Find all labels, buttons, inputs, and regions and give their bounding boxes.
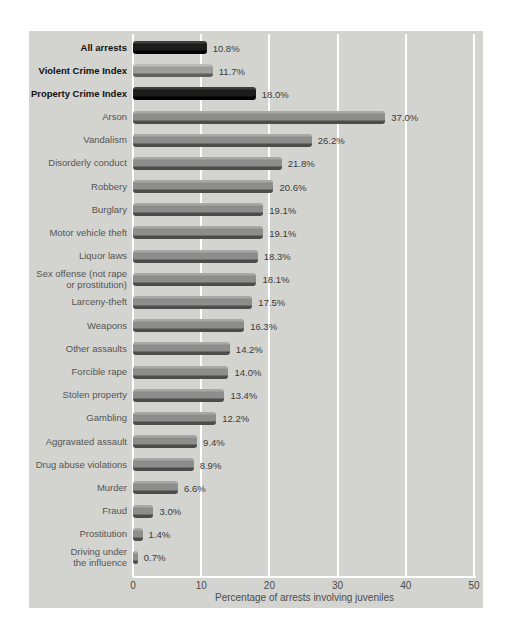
x-tick-label-20: 20 <box>264 580 275 591</box>
value-label: 3.0% <box>159 506 181 517</box>
bar <box>133 157 282 170</box>
category-label: Property Crime Index <box>31 89 127 100</box>
value-label: 37.0% <box>391 112 418 123</box>
bar <box>133 528 143 541</box>
value-label: 26.2% <box>318 135 345 146</box>
gridline-50 <box>473 34 475 577</box>
x-tick-label-50: 50 <box>468 580 479 591</box>
bar <box>133 389 224 402</box>
category-label: Driving under the influence <box>71 547 128 568</box>
bar <box>133 134 312 147</box>
category-label: Drug abuse violations <box>36 459 127 470</box>
bar <box>133 41 207 54</box>
bar <box>133 458 194 471</box>
value-label: 18.1% <box>262 274 289 285</box>
bar <box>133 87 256 100</box>
bar <box>133 342 230 355</box>
category-label: Arson <box>102 112 127 123</box>
value-label: 17.5% <box>258 297 285 308</box>
category-label: Prostitution <box>79 529 127 540</box>
x-axis-title: Percentage of arrests involving juvenile… <box>133 592 476 603</box>
bar <box>133 273 256 286</box>
category-label: Sex offense (not rape or prostitution) <box>36 269 127 290</box>
bar <box>133 111 385 124</box>
bar <box>133 226 263 239</box>
value-label: 12.2% <box>222 413 249 424</box>
value-label: 20.6% <box>279 181 306 192</box>
category-label: Larceny-theft <box>72 297 127 308</box>
value-label: 16.3% <box>250 320 277 331</box>
bar <box>133 64 213 77</box>
category-label: Stolen property <box>63 390 127 401</box>
bar <box>133 505 153 518</box>
bar <box>133 296 252 309</box>
value-label: 0.7% <box>144 552 166 563</box>
x-tick-label-10: 10 <box>196 580 207 591</box>
category-label: Forcible rape <box>72 367 127 378</box>
x-tick-label-40: 40 <box>400 580 411 591</box>
value-label: 10.8% <box>213 42 240 53</box>
category-label: Murder <box>97 483 127 494</box>
value-label: 11.7% <box>219 65 245 76</box>
bar <box>133 180 273 193</box>
juvenile-arrests-bar-chart: Percentage of arrests involving juvenile… <box>0 0 507 629</box>
value-label: 8.9% <box>200 459 222 470</box>
bar <box>133 412 216 425</box>
category-label: Burglary <box>92 205 127 216</box>
category-label: Robbery <box>91 181 127 192</box>
bar <box>133 203 263 216</box>
chart-panel: Percentage of arrests involving juvenile… <box>29 31 483 608</box>
category-label: Disorderly conduct <box>48 158 127 169</box>
category-label: Vandalism <box>83 135 127 146</box>
category-label: Fraud <box>102 506 127 517</box>
bar <box>133 319 244 332</box>
category-label: Liquor laws <box>79 251 127 262</box>
bar <box>133 481 178 494</box>
bar <box>133 366 228 379</box>
value-label: 13.4% <box>230 390 257 401</box>
value-label: 19.1% <box>269 204 296 215</box>
x-axis-line <box>133 576 476 578</box>
value-label: 9.4% <box>203 436 225 447</box>
category-label: All arrests <box>81 42 127 53</box>
value-label: 18.3% <box>264 251 291 262</box>
category-label: Motor vehicle theft <box>49 228 127 239</box>
category-label: Gambling <box>86 413 127 424</box>
value-label: 21.8% <box>288 158 315 169</box>
value-label: 14.0% <box>234 367 261 378</box>
bar <box>133 250 258 263</box>
category-label: Violent Crime Index <box>38 65 127 76</box>
value-label: 14.2% <box>236 343 263 354</box>
value-label: 1.4% <box>149 529 171 540</box>
bar <box>133 551 138 564</box>
category-label: Aggravated assault <box>46 436 127 447</box>
value-label: 6.6% <box>184 482 206 493</box>
x-tick-label-0: 0 <box>130 580 136 591</box>
category-label: Other assaults <box>66 344 127 355</box>
value-label: 18.0% <box>262 88 289 99</box>
x-tick-label-30: 30 <box>332 580 343 591</box>
category-label: Weapons <box>87 320 127 331</box>
value-label: 19.1% <box>269 227 296 238</box>
bar <box>133 435 197 448</box>
